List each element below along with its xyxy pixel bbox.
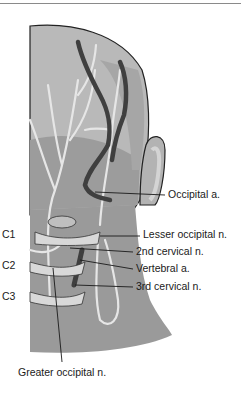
label-occipital-artery: Occipital a. bbox=[168, 189, 220, 200]
label-c2: C2 bbox=[2, 260, 15, 271]
label-vertebral-artery: Vertebral a. bbox=[136, 263, 190, 274]
label-c3: C3 bbox=[2, 291, 15, 302]
label-greater-occipital-nerve: Greater occipital n. bbox=[18, 367, 106, 378]
label-c1: C1 bbox=[2, 229, 15, 240]
label-third-cervical-nerve: 3rd cervical n. bbox=[136, 281, 201, 292]
label-second-cervical-nerve: 2nd cervical n. bbox=[136, 246, 204, 257]
label-lesser-occipital-nerve: Lesser occipital n. bbox=[143, 229, 227, 240]
